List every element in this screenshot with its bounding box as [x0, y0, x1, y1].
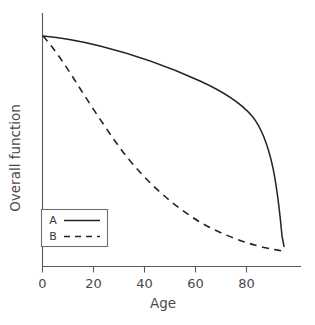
chart-svg: 0 20 40 60 80 A B Age Overall function: [0, 0, 315, 325]
legend-label-a: A: [49, 214, 57, 227]
x-axis-title: Age: [150, 295, 176, 311]
x-tick-label-20: 20: [85, 276, 102, 291]
x-tick-label-0: 0: [38, 276, 46, 291]
x-tick-label-40: 40: [136, 276, 153, 291]
legend-label-b: B: [49, 230, 57, 243]
x-axis-tick-labels: 0 20 40 60 80: [38, 276, 254, 291]
y-axis-title: Overall function: [7, 104, 23, 212]
x-tick-label-60: 60: [187, 276, 204, 291]
x-tick-label-80: 80: [238, 276, 255, 291]
chart-figure: 0 20 40 60 80 A B Age Overall function: [0, 0, 315, 325]
x-axis-ticks: [43, 267, 247, 273]
chart-legend[interactable]: A B: [42, 210, 108, 247]
